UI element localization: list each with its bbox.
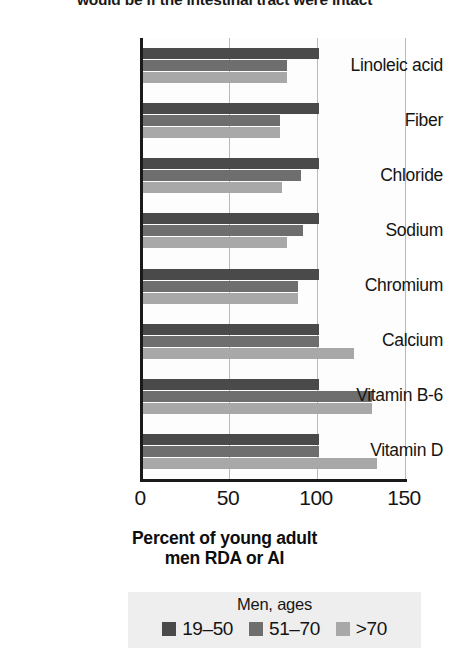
legend-item: 19–50 bbox=[162, 618, 233, 640]
legend-item: >70 bbox=[336, 618, 387, 640]
y-axis-label: Vitamin D bbox=[315, 440, 449, 461]
y-axis-label: Linoleic acid bbox=[315, 55, 449, 76]
bar bbox=[143, 336, 319, 347]
bar bbox=[143, 103, 319, 114]
y-axis-label: Vitamin B-6 bbox=[315, 385, 449, 406]
bar bbox=[143, 115, 280, 126]
y-axis-label: Chloride bbox=[315, 165, 449, 186]
legend-swatch-icon bbox=[162, 622, 176, 636]
legend-swatch-icon bbox=[336, 622, 350, 636]
x-axis-tick: 0 bbox=[134, 486, 145, 510]
legend-title: Men, ages bbox=[128, 595, 421, 614]
y-axis-label: Calcium bbox=[315, 330, 449, 351]
bar bbox=[143, 237, 287, 248]
x-axis-title: Percent of young adult men RDA or AI bbox=[0, 528, 449, 568]
x-axis-tick: 50 bbox=[217, 486, 239, 510]
y-axis-label: Chromium bbox=[315, 275, 449, 296]
bar bbox=[143, 127, 280, 138]
x-axis-title-line2: men RDA or AI bbox=[0, 548, 449, 568]
x-axis-title-line1: Percent of young adult bbox=[0, 528, 449, 548]
legend-label: 19–50 bbox=[182, 618, 233, 640]
bar bbox=[143, 269, 319, 280]
y-axis-label: Fiber bbox=[315, 110, 449, 131]
legend-swatch-icon bbox=[249, 622, 263, 636]
bar bbox=[143, 379, 319, 390]
bar bbox=[143, 293, 298, 304]
legend-item: 51–70 bbox=[249, 618, 320, 640]
x-axis-tick: 100 bbox=[299, 486, 333, 510]
bar bbox=[143, 434, 319, 445]
bar bbox=[143, 48, 319, 59]
legend-label: >70 bbox=[356, 618, 387, 640]
y-axis-label: Sodium bbox=[315, 220, 449, 241]
bar bbox=[143, 446, 319, 457]
bar bbox=[143, 170, 301, 181]
x-axis-tick: 150 bbox=[387, 486, 421, 510]
legend-label: 51–70 bbox=[269, 618, 320, 640]
bar-chart: Linoleic acidFiberChlorideSodiumChromium… bbox=[0, 30, 449, 500]
bar bbox=[143, 324, 319, 335]
legend-items: 19–5051–70>70 bbox=[128, 618, 421, 640]
legend: Men, ages 19–5051–70>70 bbox=[128, 592, 421, 648]
bar bbox=[143, 72, 287, 83]
bar bbox=[143, 225, 303, 236]
bar bbox=[143, 60, 287, 71]
plot-area bbox=[140, 38, 407, 482]
page-caption-text: would be if the intestinal tract were in… bbox=[0, 0, 449, 9]
bar bbox=[143, 213, 319, 224]
bar bbox=[143, 182, 282, 193]
bar bbox=[143, 158, 319, 169]
bar bbox=[143, 281, 298, 292]
